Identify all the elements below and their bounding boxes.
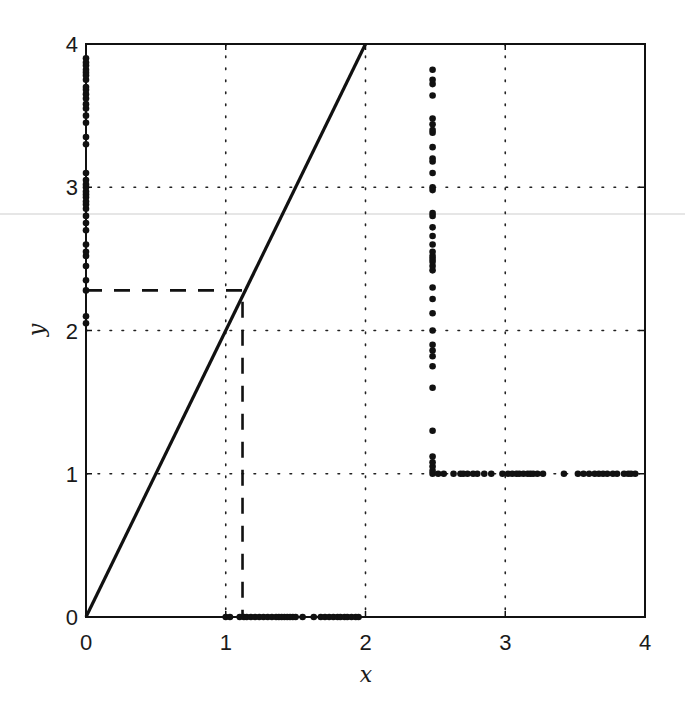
data-point [83, 227, 90, 234]
data-point [83, 263, 90, 270]
data-point [450, 470, 457, 477]
series-layer [83, 44, 639, 620]
data-point [429, 233, 436, 240]
data-point [429, 155, 436, 162]
data-point [83, 84, 90, 91]
dots-x-axis [222, 614, 361, 621]
dots-vertical-x2.5 [429, 66, 436, 477]
data-point [429, 427, 436, 434]
data-point [83, 287, 90, 294]
data-point [429, 127, 436, 134]
data-point [429, 310, 436, 317]
data-point [429, 347, 436, 354]
data-point [83, 119, 90, 126]
data-point [632, 470, 639, 477]
data-point [83, 170, 90, 177]
data-point [83, 134, 90, 141]
data-point [299, 614, 306, 621]
data-point [614, 470, 621, 477]
chart: 0 1 2 3 4 0 1 2 3 4 x y [0, 0, 685, 711]
data-point [292, 614, 299, 621]
data-point [429, 363, 436, 370]
y-tick-label: 0 [66, 605, 78, 630]
x-tick-label: 4 [639, 630, 651, 655]
data-point [429, 353, 436, 360]
data-point [429, 184, 436, 191]
data-point [429, 121, 436, 128]
y-tick-label: 2 [66, 319, 78, 344]
data-point [429, 284, 436, 291]
data-point [355, 614, 362, 621]
x-tick-label: 1 [220, 630, 232, 655]
data-point [83, 320, 90, 327]
data-point [83, 55, 90, 62]
data-point [83, 112, 90, 119]
data-point [429, 224, 436, 231]
data-point [83, 313, 90, 320]
data-point [83, 101, 90, 108]
data-point [310, 614, 317, 621]
data-point [429, 459, 436, 466]
data-point [429, 77, 436, 84]
dots-horizontal-y1 [435, 470, 639, 477]
data-point [83, 213, 90, 220]
data-point [429, 342, 436, 349]
data-point [429, 241, 436, 248]
data-point [227, 614, 234, 621]
x-axis-label: x [360, 662, 373, 687]
data-point [429, 66, 436, 73]
data-point [429, 296, 436, 303]
data-point [429, 327, 436, 334]
data-point [429, 170, 436, 177]
grid-lines [86, 44, 645, 617]
y-tick-label: 3 [66, 175, 78, 200]
data-point [561, 470, 568, 477]
data-point [440, 470, 447, 477]
data-point [429, 385, 436, 392]
data-point [540, 470, 547, 477]
data-point [481, 470, 488, 477]
data-point [83, 141, 90, 148]
data-point [429, 115, 436, 122]
data-point [488, 470, 495, 477]
data-point [83, 248, 90, 255]
y-tick-label: 1 [66, 462, 78, 487]
x-tick-label: 3 [499, 630, 511, 655]
data-point [83, 277, 90, 284]
data-point [83, 220, 90, 227]
x-tick-label: 2 [359, 630, 371, 655]
data-point [429, 453, 436, 460]
data-point [429, 144, 436, 151]
data-point [83, 177, 90, 184]
data-point [429, 92, 436, 99]
data-point [474, 470, 481, 477]
data-point [429, 248, 436, 255]
data-point [83, 241, 90, 248]
data-point [429, 210, 436, 217]
y-tick-label: 4 [66, 32, 78, 57]
y-axis-label: y [24, 323, 49, 337]
x-tick-label: 0 [80, 630, 92, 655]
